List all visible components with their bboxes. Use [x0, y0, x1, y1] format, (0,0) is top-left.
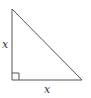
bottom-leg-label: x: [44, 83, 51, 96]
triangle-diagram: x x: [0, 0, 91, 98]
left-leg-label: x: [2, 38, 9, 51]
right-angle-marker: [12, 73, 19, 80]
triangle: [12, 9, 82, 80]
